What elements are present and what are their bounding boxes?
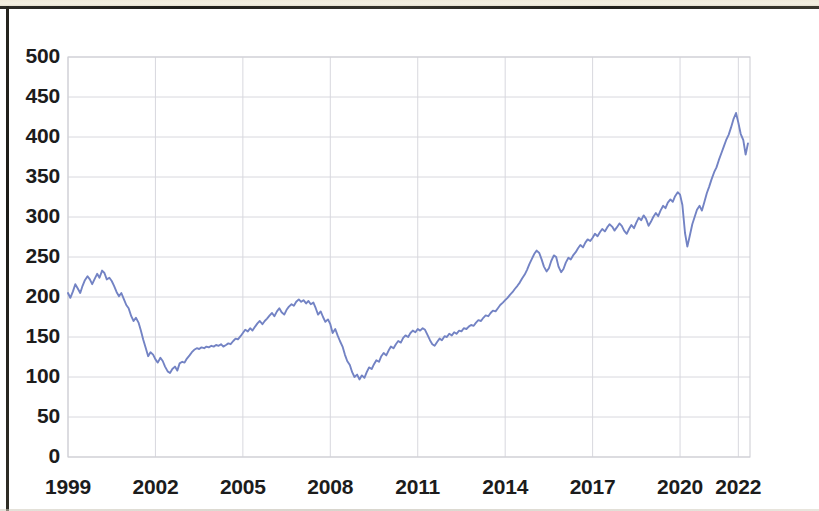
chart-canvas	[0, 9, 819, 509]
y-tick-label-350: 350	[6, 164, 60, 188]
x-tick-label-1999: 1999	[28, 475, 108, 499]
horizontal-gridlines	[68, 57, 750, 457]
y-tick-label-400: 400	[6, 124, 60, 148]
x-tick-label-2005: 2005	[203, 475, 283, 499]
y-tick-label-300: 300	[6, 204, 60, 228]
x-tick-label-2022: 2022	[698, 475, 778, 499]
y-tick-label-0: 0	[6, 444, 60, 468]
scanned-chart-page: 050100150200250300350400450500 199920022…	[0, 0, 819, 511]
y-tick-label-150: 150	[6, 324, 60, 348]
y-tick-label-50: 50	[6, 404, 60, 428]
x-tick-label-2008: 2008	[290, 475, 370, 499]
y-tick-label-500: 500	[6, 44, 60, 68]
y-tick-label-100: 100	[6, 364, 60, 388]
x-tick-label-2017: 2017	[553, 475, 633, 499]
line-chart: 050100150200250300350400450500 199920022…	[0, 9, 819, 509]
y-tick-label-250: 250	[6, 244, 60, 268]
x-tick-label-2002: 2002	[115, 475, 195, 499]
x-tick-label-2014: 2014	[465, 475, 545, 499]
y-tick-label-450: 450	[6, 84, 60, 108]
y-tick-label-200: 200	[6, 284, 60, 308]
x-tick-label-2011: 2011	[378, 475, 458, 499]
series-line-index	[68, 113, 748, 379]
